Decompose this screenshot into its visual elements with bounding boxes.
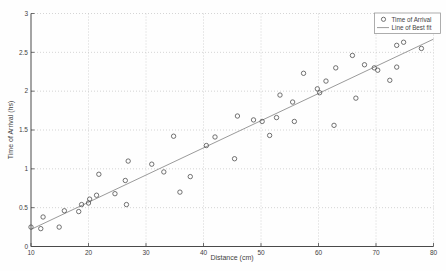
legend: Time of Arrival Line of Best fit [375,13,441,34]
tick-labels: 102030405060708000.511.522.53 [19,10,438,256]
data-point-marker [324,79,328,83]
y-tick-label: 2 [24,87,28,94]
x-tick-label: 30 [142,249,150,256]
data-point-marker [350,53,354,57]
data-point-marker [395,65,399,69]
y-tick-label: 2.5 [19,49,28,56]
data-point-marker [94,193,98,197]
data-point-marker [278,93,282,97]
data-point-marker [123,178,127,182]
data-point-marker [401,40,405,44]
data-point-marker [178,190,182,194]
data-point-marker [251,118,255,122]
x-tick-label: 20 [85,249,93,256]
data-point-marker [162,170,166,174]
y-tick-label: 3 [24,10,28,17]
data-point-marker [267,133,271,137]
data-point-marker [362,63,366,67]
x-tick-label: 50 [257,249,265,256]
data-point-marker [77,209,81,213]
y-tick-label: 1.5 [19,126,28,133]
data-point-marker [126,159,130,163]
data-point-marker [213,135,217,139]
x-tick-label: 10 [27,249,35,256]
data-point-marker [188,174,192,178]
data-point-marker [354,96,358,100]
x-tick-label: 80 [430,249,438,256]
y-axis-label: Time of Arrival (hs) [7,101,15,159]
data-point-marker [41,215,45,219]
data-point-marker [292,119,296,123]
grid-lines [31,14,434,247]
scatter-plot: 102030405060708000.511.522.53 Distance (… [0,0,446,271]
data-point-marker [419,46,423,50]
data-point-marker [150,162,154,166]
y-tick-label: 1 [24,165,28,172]
data-point-marker [376,68,380,72]
data-point-marker [232,157,236,161]
y-tick-label: 0.5 [19,204,28,211]
data-point-marker [113,191,117,195]
x-axis-label: Distance (cm) [210,254,253,262]
legend-label-time-of-arrival: Time of Arrival [392,16,432,23]
x-tick-label: 70 [372,249,380,256]
data-point-marker [62,209,66,213]
data-point-marker [332,123,336,127]
data-point-marker [97,172,101,176]
data-point-marker [301,71,305,75]
data-point-marker [334,66,338,70]
data-point-marker [235,114,239,118]
data-point-marker [171,134,175,138]
data-point-marker [274,115,278,119]
figure-window: 102030405060708000.511.522.53 Distance (… [0,0,446,271]
data-point-marker [87,197,91,201]
x-tick-label: 60 [315,249,323,256]
data-point-marker [39,226,43,230]
x-tick-label: 40 [200,249,208,256]
data-point-marker [395,43,399,47]
data-point-marker [124,202,128,206]
data-point-marker [290,100,294,104]
data-point-marker [57,225,61,229]
data-point-marker [388,78,392,82]
legend-label-line-of-best-fit: Line of Best fit [392,24,432,31]
y-tick-label: 0 [24,243,28,250]
